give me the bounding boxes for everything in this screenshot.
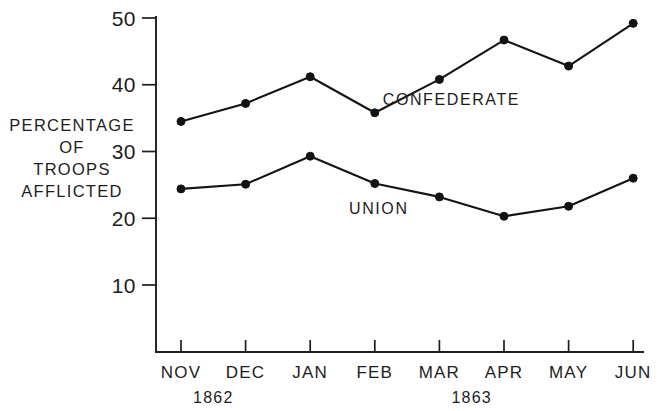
y-tick-label: 10 — [112, 274, 136, 297]
x-tick-label: DEC — [226, 363, 266, 382]
data-point-marker — [306, 152, 314, 160]
data-point-marker — [177, 185, 185, 193]
x-axis-year-label: 1863 — [451, 389, 491, 406]
x-tick-label: JUN — [615, 363, 652, 382]
data-point-marker — [371, 109, 379, 117]
y-axis-label-line-3: TROOPS — [33, 160, 110, 178]
data-point-marker — [371, 180, 379, 188]
data-series-group — [177, 19, 637, 220]
x-axis-ticks: NOVDECJANFEBMARAPRMAYJUN — [161, 340, 652, 382]
series-annotation-union: UNION — [349, 200, 409, 217]
x-tick-label: MAR — [419, 363, 460, 382]
data-point-marker — [500, 36, 508, 44]
x-axis-year-label: 1862 — [193, 389, 233, 406]
data-point-marker — [629, 19, 637, 27]
x-tick-label: FEB — [356, 363, 393, 382]
data-point-marker — [306, 73, 314, 81]
y-tick-label: 40 — [112, 73, 136, 96]
data-point-marker — [242, 99, 250, 107]
x-tick-label: NOV — [161, 363, 201, 382]
y-tick-label: 50 — [112, 7, 136, 30]
x-tick-label: MAY — [549, 363, 588, 382]
data-point-marker — [242, 180, 250, 188]
y-axis-ticks: 1020304050 — [112, 7, 156, 297]
data-point-marker — [435, 75, 443, 83]
y-tick-label: 30 — [112, 140, 136, 163]
data-point-marker — [629, 174, 637, 182]
x-axis-year-labels: 18621863 — [193, 389, 492, 406]
x-tick-label: JAN — [292, 363, 328, 382]
y-axis-label-line-4: AFFLICTED — [21, 182, 123, 200]
y-axis-label-line-1: PERCENTAGE — [9, 116, 134, 134]
data-point-marker — [565, 202, 573, 210]
series-annotation-confederate: CONFEDERATE — [383, 91, 520, 108]
line-chart: PERCENTAGE OF TROOPS AFFLICTED 102030405… — [0, 0, 659, 411]
chart-container: PERCENTAGE OF TROOPS AFFLICTED 102030405… — [0, 0, 659, 411]
y-tick-label: 20 — [112, 207, 136, 230]
data-point-marker — [565, 62, 573, 70]
x-tick-label: APR — [485, 363, 524, 382]
y-axis-label-line-2: OF — [59, 138, 85, 156]
data-point-marker — [500, 212, 508, 220]
data-point-marker — [177, 117, 185, 125]
data-point-marker — [435, 193, 443, 201]
